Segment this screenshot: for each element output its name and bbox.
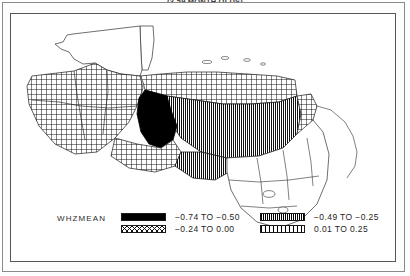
region-guatemala-west	[27, 63, 143, 154]
legend-range-3: −0.24 TO 0.00	[175, 224, 234, 234]
island-cay-1	[202, 60, 212, 63]
region-el-salvador	[111, 138, 181, 172]
legend-row-4: 0.01 TO 0.25	[260, 225, 396, 234]
island-cay-4	[260, 63, 265, 65]
legend-range-4: 0.01 TO 0.25	[314, 224, 368, 234]
scanned-page: (3-59 MONTH OLDS)	[0, 0, 410, 276]
legend-swatch-dense-vertical	[260, 213, 305, 221]
map-legend: WHZMEAN −0.74 TO −0.50 −0.24 TO 0.00 −0.…	[11, 200, 395, 261]
legend-row-3: −0.49 TO −0.25	[260, 213, 396, 222]
region-el-salvador-east	[175, 152, 229, 180]
legend-swatch-light-vertical	[260, 225, 305, 233]
legend-variable-label: WHZMEAN	[57, 214, 106, 223]
legend-range-2: −0.49 TO −0.25	[314, 212, 379, 222]
legend-row-2: −0.24 TO 0.00	[121, 225, 281, 234]
legend-range-1: −0.74 TO −0.50	[175, 212, 240, 222]
region-belize	[140, 26, 154, 70]
legend-swatch-solid-black	[121, 213, 166, 221]
legend-swatch-cross-hatch	[121, 225, 166, 233]
island-cay-3	[244, 59, 251, 62]
island-cay-2	[221, 57, 229, 60]
legend-row-1: −0.74 TO −0.50	[121, 213, 281, 222]
lake-managua	[263, 191, 275, 198]
map-panel: WHZMEAN −0.74 TO −0.50 −0.24 TO 0.00 −0.…	[10, 13, 396, 262]
